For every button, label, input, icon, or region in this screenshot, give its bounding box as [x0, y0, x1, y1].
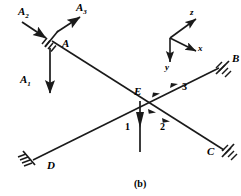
figure-caption: (b) — [134, 178, 146, 189]
force-label-A1: A1 — [20, 74, 31, 88]
joint-label-E: E — [134, 86, 141, 97]
axis-label-y: y — [165, 63, 169, 72]
axis-label-z: z — [190, 8, 194, 17]
joint-label-A: A — [62, 38, 69, 49]
joint-label-B: B — [232, 53, 239, 64]
joint-label-C: C — [207, 146, 214, 157]
support-D — [18, 151, 35, 166]
force-arrow-A3 — [57, 17, 80, 32]
member-label-1: 1 — [125, 122, 130, 132]
force-label-A2-subscript: 2 — [25, 12, 29, 20]
force-label-A2: A2 — [18, 6, 29, 20]
axis-triad — [170, 19, 196, 62]
member-D-to-B — [33, 68, 219, 160]
figure-panel-b: A B C D E A1 A2 A3 1 2 3 z x y (b) — [0, 0, 241, 196]
force-label-A1-subscript: 1 — [27, 80, 31, 88]
truss-diagram-svg — [0, 0, 241, 196]
force-arrow-2 — [148, 109, 170, 123]
member-label-3: 3 — [182, 82, 187, 92]
axis-label-x: x — [198, 44, 203, 53]
member-label-2: 2 — [160, 122, 165, 132]
force-label-A3-subscript: 3 — [83, 8, 87, 16]
force-label-A3: A3 — [76, 2, 87, 16]
joint-label-D: D — [47, 160, 55, 171]
support-C — [222, 144, 237, 160]
force-arrow-A2 — [22, 22, 46, 38]
